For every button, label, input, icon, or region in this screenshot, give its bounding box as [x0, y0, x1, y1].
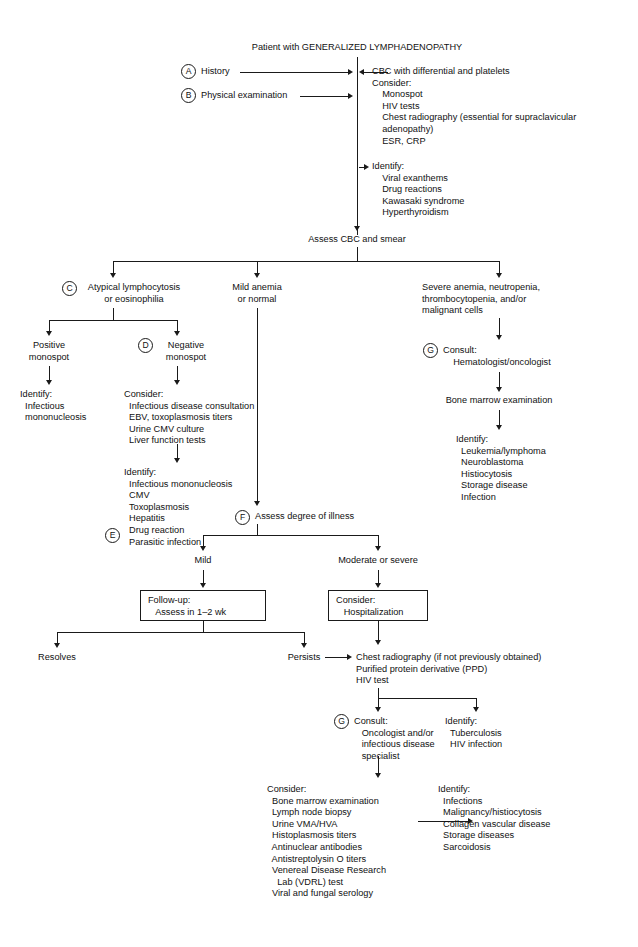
physical-exam-arrowhead-icon — [348, 93, 353, 99]
initial-identify-arrowhead-icon — [364, 164, 369, 170]
history-arrowhead-icon — [348, 69, 353, 75]
positive-monospot-arrowhead-icon — [46, 331, 52, 336]
node-branch-mild: Mild anemia or normal — [232, 282, 282, 305]
main-trunk-line — [357, 57, 358, 235]
final-consider-connector-line — [378, 756, 379, 774]
node-second-workup: Chest radiography (if not previously obt… — [356, 652, 541, 687]
node-branch-atypical: Atypical lymphocytosis or eosinophilia — [88, 282, 180, 305]
bone-marrow-line — [499, 372, 500, 388]
marker-g-oncology: G — [334, 714, 349, 729]
marker-b: B — [181, 88, 196, 103]
marker-e: E — [105, 528, 120, 543]
negative-consider-line — [177, 366, 178, 381]
moderate-branch-arrowhead-icon — [375, 546, 381, 551]
severe-consult-arrowhead-icon — [496, 335, 502, 340]
atypical-stem-line — [113, 308, 114, 320]
hospitalization-box-text: Consider: Hospitalization — [336, 595, 403, 618]
node-negative-monospot: Negative monospot — [166, 340, 206, 363]
hospitalization-arrowhead-icon — [375, 583, 381, 588]
history-connector — [240, 72, 348, 73]
node-physical-exam: Physical examination — [201, 90, 287, 102]
positive-identify-line — [49, 366, 50, 381]
node-history: History — [201, 66, 230, 78]
branch-right-arrowhead-icon — [496, 273, 502, 278]
illness-split-stem-line — [257, 524, 258, 535]
initial-workup-arrowhead-icon — [359, 69, 364, 75]
persists-arrowhead-icon — [301, 643, 307, 648]
severe-consult-line — [499, 318, 500, 336]
node-positive-monospot: Positive monospot — [29, 340, 69, 363]
node-assess-illness: Assess degree of illness — [255, 511, 354, 523]
marker-d: D — [138, 338, 153, 353]
marrow-identify-arrowhead-icon — [496, 425, 502, 430]
branch-left-arrowhead-icon — [110, 273, 116, 278]
node-tb-identify: Identify: Tuberculosis HIV infection — [445, 716, 502, 751]
tb-split-stem-line — [378, 688, 379, 698]
node-final-identify: Identify: Infections Malignancy/histiocy… — [438, 784, 550, 854]
node-bone-marrow: Bone marrow examination — [446, 395, 553, 407]
persists-connector-line — [325, 657, 347, 658]
mild-trunk-line — [257, 308, 258, 502]
branch-middle-arrowhead-icon — [254, 273, 260, 278]
hospitalization-box: Consider: Hospitalization — [328, 590, 428, 621]
negative-identify-line — [177, 444, 178, 459]
split-stem-line — [357, 247, 358, 261]
negative-consider-arrowhead-icon — [174, 380, 180, 385]
physical-exam-connector — [300, 96, 348, 97]
node-mild: Mild — [195, 555, 212, 567]
marker-a: A — [181, 64, 196, 79]
node-resolves: Resolves — [38, 652, 76, 664]
node-marrow-identify: Identify: Leukemia/lymphoma Neuroblastom… — [456, 434, 546, 504]
followup-split-bus-line — [57, 632, 304, 633]
marrow-identify-line — [499, 410, 500, 426]
node-positive-identify: Identify: Infectious mononucleosis — [20, 389, 86, 424]
node-initial-identify: Identify: Viral exanthems Drug reactions… — [372, 161, 464, 219]
tb-split-bus-line — [378, 698, 476, 699]
node-consult-oncology: Consult: Oncologist and/or infectious di… — [354, 716, 435, 762]
marker-g-hemonc: G — [423, 343, 438, 358]
bone-marrow-arrowhead-icon — [496, 387, 502, 392]
node-negative-consider: Consider: Infectious disease consultatio… — [124, 389, 254, 447]
mild-branch-arrowhead-icon — [200, 546, 206, 551]
hospitalization-connector-line — [378, 570, 379, 584]
final-consider-arrowhead-icon — [375, 773, 381, 778]
followup-box: Follow-up: Assess in 1–2 wk — [140, 590, 266, 621]
assess-cbc-arrowhead-icon — [354, 226, 360, 231]
resolves-arrowhead-icon — [54, 643, 60, 648]
flowchart-canvas: Patient with GENERALIZED LYMPHADENOPATHY… — [0, 0, 638, 947]
tb-identify-arrowhead-icon — [473, 707, 479, 712]
node-branch-severe: Severe anemia, neutropenia, thrombocytop… — [422, 282, 540, 317]
negative-identify-arrowhead-icon — [174, 458, 180, 463]
consult-onc-arrowhead-icon — [375, 707, 381, 712]
assess-illness-arrowhead-icon — [254, 501, 260, 506]
positive-identify-arrowhead-icon — [46, 380, 52, 385]
followup-arrowhead-icon — [200, 583, 206, 588]
node-consult-hemonc: Consult: Hematologist/oncologist — [443, 345, 551, 368]
page-title: Patient with GENERALIZED LYMPHADENOPATHY — [252, 42, 462, 54]
illness-split-bus-line — [203, 535, 378, 536]
split-bus-line — [113, 261, 499, 262]
node-initial-workup: CBC with differential and platelets Cons… — [372, 66, 576, 147]
node-persists: Persists — [288, 652, 321, 664]
followup-box-text: Follow-up: Assess in 1–2 wk — [148, 595, 226, 618]
node-final-consider: Consider: Bone marrow examination Lymph … — [267, 784, 386, 900]
atypical-bus-line — [49, 320, 177, 321]
second-workup-arrowhead-icon — [375, 640, 381, 645]
node-assess-cbc: Assess CBC and smear — [308, 234, 406, 246]
followup-split-stem-line — [203, 621, 204, 632]
second-workup-connector-line — [378, 621, 379, 641]
marker-f: F — [235, 510, 250, 525]
persists-connector-arrowhead-icon — [347, 654, 352, 660]
negative-monospot-arrowhead-icon — [174, 331, 180, 336]
node-moderate-severe: Moderate or severe — [338, 555, 418, 567]
followup-connector-line — [203, 570, 204, 584]
marker-c: C — [62, 281, 77, 296]
